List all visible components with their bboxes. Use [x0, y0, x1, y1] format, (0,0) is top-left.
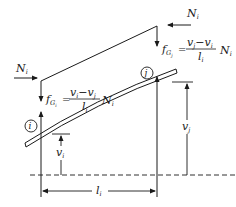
node-i-marker: i: [25, 120, 37, 132]
v-i-dimension: vi: [52, 134, 70, 175]
svg-text:i: i: [29, 121, 32, 131]
svg-text:li: li: [198, 50, 204, 64]
svg-text:=: =: [178, 44, 186, 55]
right-axial-force-label: Ni: [186, 7, 199, 21]
node-axes: [41, 77, 157, 197]
svg-text:fGj: fGj: [161, 43, 173, 58]
left-axial-force-label: Ni: [15, 62, 28, 76]
svg-text:Ni: Ni: [219, 44, 232, 58]
beam: [25, 69, 177, 147]
svg-text:fGi: fGi: [45, 93, 57, 108]
svg-text:Ni: Ni: [101, 94, 114, 108]
right-axial-force-arrow: Ni: [168, 7, 199, 25]
svg-text:vi−vj: vi−vj: [70, 86, 96, 100]
left-shear-equation: fGi = vi−vj li Ni: [45, 86, 114, 114]
left-axial-force-arrow: Ni: [14, 62, 37, 78]
right-shear-equation: fGj = vj−vi li Ni: [161, 36, 232, 64]
node-j-marker: j: [141, 67, 153, 79]
l-i-dimension: li: [43, 184, 155, 198]
beam-element-diagram: Ni Ni fGi = vi−vj li Ni fGj = vj−vi li N…: [0, 0, 236, 207]
v-j-dimension: vj: [172, 82, 195, 175]
svg-text:vj−vi: vj−vi: [187, 36, 213, 50]
svg-text:li: li: [96, 184, 102, 198]
svg-text:j: j: [143, 68, 148, 78]
force-diagram-outline: [41, 26, 157, 101]
